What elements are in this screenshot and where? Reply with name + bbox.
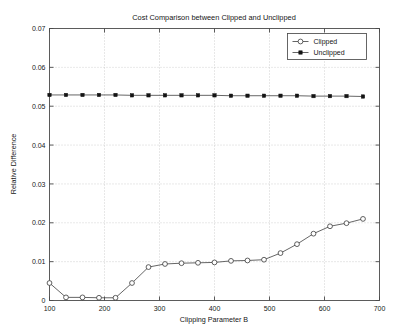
data-point-marker [80, 295, 85, 300]
data-point-marker [328, 94, 331, 97]
data-point-marker [262, 94, 265, 97]
data-point-marker [180, 94, 183, 97]
data-point-marker [81, 93, 84, 96]
x-tick-label: 200 [99, 305, 111, 312]
data-point-marker [163, 94, 166, 97]
x-tick-label: 400 [209, 305, 221, 312]
data-point-marker [212, 260, 217, 265]
legend-marker-filled-square [299, 51, 302, 54]
y-tick-label: 0.03 [32, 181, 46, 188]
data-point-marker [48, 93, 51, 96]
data-point-marker [113, 295, 118, 300]
data-point-marker [114, 93, 117, 96]
x-tick-label: 500 [264, 305, 276, 312]
data-point-marker [64, 93, 67, 96]
data-point-marker [344, 221, 349, 226]
legend-marker-open-circle [298, 39, 303, 44]
x-tick-label: 600 [319, 305, 331, 312]
data-point-marker [295, 242, 300, 247]
chart-title: Cost Comparison between Clipped and Uncl… [132, 13, 296, 22]
y-tick-label: 0.05 [32, 103, 46, 110]
data-point-marker [146, 265, 151, 270]
data-point-marker [295, 94, 298, 97]
data-point-marker [229, 94, 232, 97]
legend-label: Clipped [314, 38, 338, 46]
chart-canvas: 100200300400500600700 00.010.020.030.040… [0, 0, 401, 335]
y-axis-label: Relative Difference [9, 134, 18, 195]
y-tick-label: 0.07 [32, 25, 46, 32]
data-point-marker [278, 251, 283, 256]
data-point-marker [47, 281, 52, 286]
data-point-marker [163, 262, 168, 267]
y-tick-label: 0.02 [32, 219, 46, 226]
data-point-marker [130, 94, 133, 97]
y-tick-label: 0.04 [32, 142, 46, 149]
data-point-marker [246, 94, 249, 97]
x-tick-label: 700 [374, 305, 386, 312]
data-point-marker [361, 217, 366, 222]
data-point-marker [196, 260, 201, 265]
data-point-marker [345, 94, 348, 97]
data-point-marker [64, 295, 69, 300]
legend-label: Unclipped [314, 49, 345, 57]
data-point-marker [97, 93, 100, 96]
data-point-marker [311, 231, 316, 236]
data-point-marker [245, 258, 250, 263]
x-tick-label: 100 [44, 305, 56, 312]
data-point-marker [130, 281, 135, 286]
data-point-marker [328, 224, 333, 229]
y-tick-label: 0.01 [32, 258, 46, 265]
y-tick-label: 0 [42, 297, 46, 304]
data-point-marker [229, 258, 234, 263]
data-point-marker [279, 94, 282, 97]
chart-legend[interactable]: ClippedUnclipped [288, 34, 367, 60]
data-point-marker [196, 94, 199, 97]
data-point-marker [179, 261, 184, 266]
data-point-marker [312, 94, 315, 97]
x-axis-label: Clipping Parameter B [180, 315, 249, 324]
data-point-marker [147, 94, 150, 97]
x-tick-label: 300 [154, 305, 166, 312]
data-point-marker [213, 94, 216, 97]
y-tick-label: 0.06 [32, 64, 46, 71]
data-point-marker [262, 257, 267, 262]
data-point-marker [361, 95, 364, 98]
chart-figure: 100200300400500600700 00.010.020.030.040… [0, 0, 401, 335]
data-point-marker [97, 295, 102, 300]
